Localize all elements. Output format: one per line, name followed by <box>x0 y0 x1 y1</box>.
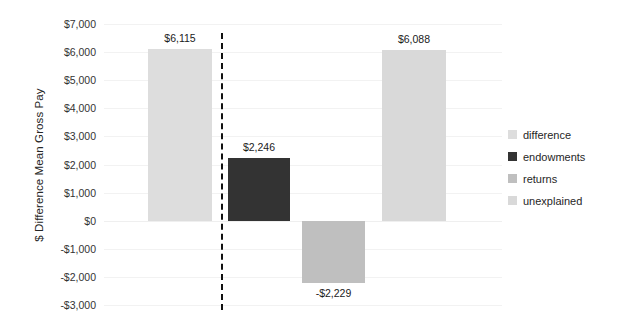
chart-legend: differenceendowmentsreturnsunexplained <box>508 128 585 207</box>
legend-item-endowments[interactable]: endowments <box>508 150 585 163</box>
y-axis-tick-label: $1,000 <box>26 187 96 199</box>
legend-item-returns[interactable]: returns <box>508 172 585 185</box>
bar-returns[interactable] <box>302 221 365 284</box>
bar-chart: $ Difference Mean Gross Pay $7,000$6,000… <box>0 0 626 330</box>
bar-value-label: $6,088 <box>398 33 430 45</box>
legend-item-label: returns <box>523 173 557 185</box>
y-axis-tick-label: $0 <box>26 215 96 227</box>
bar-difference[interactable] <box>148 49 212 221</box>
y-axis-tick-label: -$2,000 <box>26 271 96 283</box>
gridline <box>104 24 502 25</box>
plot-area <box>104 24 502 305</box>
legend-item-label: endowments <box>523 151 585 163</box>
y-axis-tick-label: $2,000 <box>26 159 96 171</box>
y-axis-tick-label: -$1,000 <box>26 243 96 255</box>
bar-value-label: $6,115 <box>164 32 195 44</box>
y-axis-tick-label: $5,000 <box>26 74 96 86</box>
legend-swatch-icon <box>508 130 517 139</box>
bar-value-label: -$2,229 <box>316 287 352 299</box>
y-axis-tick-label: -$3,000 <box>26 299 96 311</box>
legend-item-unexplained[interactable]: unexplained <box>508 194 585 207</box>
bar-value-label: $2,246 <box>243 141 275 153</box>
y-axis-tick-label: $7,000 <box>26 18 96 30</box>
legend-swatch-icon <box>508 152 517 161</box>
legend-item-difference[interactable]: difference <box>508 128 585 141</box>
legend-swatch-icon <box>508 174 517 183</box>
bar-unexplained[interactable] <box>382 50 446 221</box>
bar-endowments[interactable] <box>228 158 290 221</box>
gridline <box>104 305 502 306</box>
legend-item-label: difference <box>523 129 571 141</box>
legend-swatch-icon <box>508 196 517 205</box>
y-axis-tick-label: $4,000 <box>26 102 96 114</box>
y-axis-tick-label: $3,000 <box>26 130 96 142</box>
y-axis-tick-label: $6,000 <box>26 46 96 58</box>
vertical-dashed-divider <box>221 33 223 310</box>
legend-item-label: unexplained <box>523 195 582 207</box>
